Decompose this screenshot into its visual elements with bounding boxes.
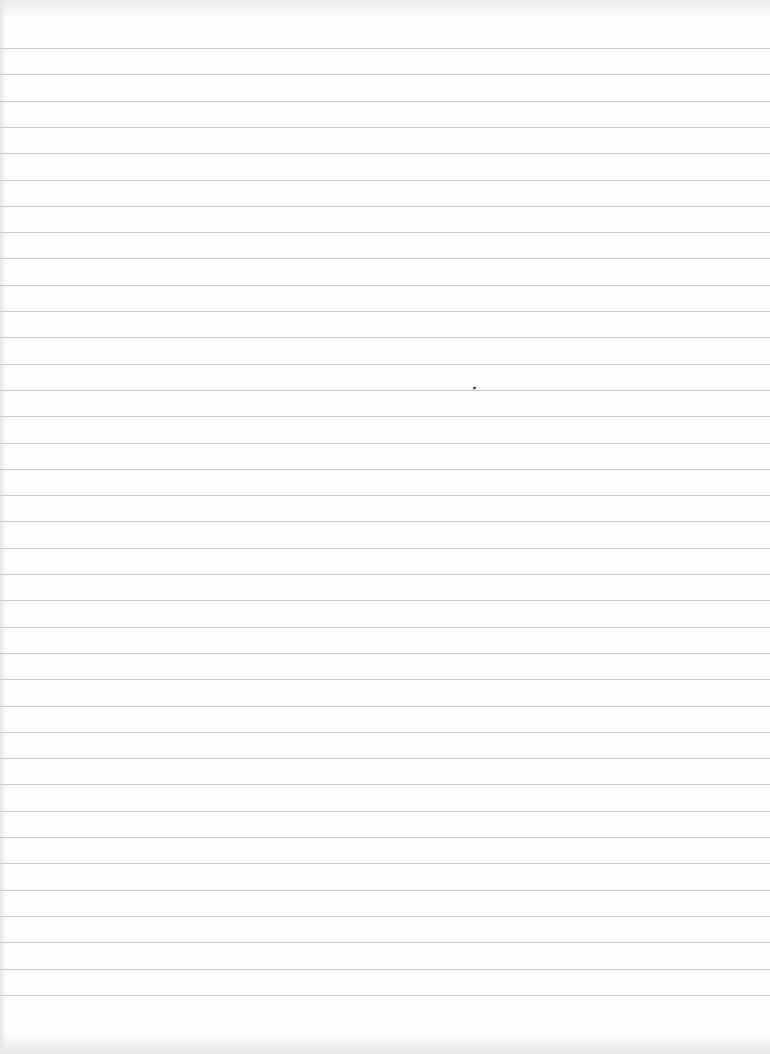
ruled-line <box>0 495 770 496</box>
ruled-line <box>0 811 770 812</box>
ruled-line <box>0 653 770 654</box>
scan-edge-left <box>0 0 6 1054</box>
ruled-line <box>0 758 770 759</box>
ruled-line <box>0 916 770 917</box>
scan-edge-top <box>0 0 770 18</box>
lined-paper-sheet <box>0 0 770 1054</box>
ruled-line <box>0 285 770 286</box>
ruled-line <box>0 863 770 864</box>
ruled-line <box>0 443 770 444</box>
ruled-line <box>0 837 770 838</box>
ruled-line <box>0 600 770 601</box>
ruled-line <box>0 627 770 628</box>
ruled-line <box>0 942 770 943</box>
ruled-line <box>0 258 770 259</box>
ruled-line <box>0 74 770 75</box>
ruled-line <box>0 206 770 207</box>
ruled-line <box>0 180 770 181</box>
ruled-line <box>0 890 770 891</box>
ruled-line <box>0 232 770 233</box>
ruled-line <box>0 521 770 522</box>
ruled-line <box>0 127 770 128</box>
ruled-line <box>0 101 770 102</box>
ruled-line <box>0 784 770 785</box>
ruled-line <box>0 469 770 470</box>
ruled-line <box>0 390 770 391</box>
ruled-line <box>0 995 770 996</box>
ruled-line <box>0 416 770 417</box>
ruled-line <box>0 48 770 49</box>
ruled-line <box>0 679 770 680</box>
scan-edge-bottom <box>0 1034 770 1054</box>
ruled-line <box>0 337 770 338</box>
ruled-line <box>0 732 770 733</box>
ruled-line <box>0 153 770 154</box>
ruled-line <box>0 969 770 970</box>
ruled-line <box>0 574 770 575</box>
ruled-line <box>0 364 770 365</box>
ruled-line <box>0 706 770 707</box>
ruled-line <box>0 311 770 312</box>
ruled-line <box>0 548 770 549</box>
